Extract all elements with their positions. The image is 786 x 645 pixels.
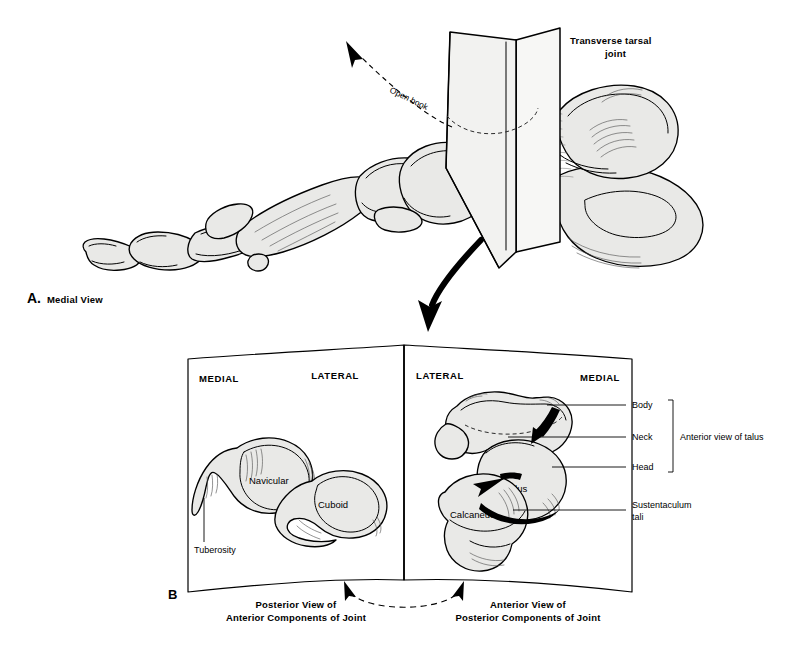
transverse-tarsal-joint-label-line2: joint — [604, 48, 627, 59]
transverse-tarsal-joint-label-line1: Transverse tarsal — [570, 35, 652, 46]
left-page-caption-line2: Anterior Components of Joint — [226, 612, 367, 623]
anatomy-figure-svg: Open book Transverse tarsal joint A. Med… — [0, 0, 786, 645]
cutting-plane-posterior — [516, 28, 560, 252]
panel-a-letter: A. — [27, 290, 41, 306]
label-head: Head — [632, 462, 654, 472]
panel-a-caption: Medial View — [47, 294, 103, 305]
right-page-orientation-lateral: LATERAL — [416, 370, 464, 381]
bone-label-cuboid: Cuboid — [318, 499, 348, 510]
right-page-orientation-medial: MEDIAL — [580, 372, 620, 383]
left-page-orientation-lateral: LATERAL — [311, 370, 359, 381]
left-page-caption-line1: Posterior View of — [256, 599, 337, 610]
left-page-orientation-medial: MEDIAL — [199, 373, 239, 384]
right-page-caption-line2: Posterior Components of Joint — [455, 612, 601, 623]
label-sustentaculum-line1: Sustentaculum — [632, 500, 692, 510]
label-body: Body — [632, 400, 653, 410]
bone-tuberosity-nub — [248, 254, 269, 271]
bone-label-navicular: Navicular — [249, 475, 289, 486]
figure-root: Open book Transverse tarsal joint A. Med… — [0, 0, 786, 645]
bracket-label-anterior-view-of-talus: Anterior view of talus — [680, 432, 764, 442]
tuberosity-label: Tuberosity — [194, 545, 236, 555]
label-sustentaculum-line2: tali — [632, 512, 644, 522]
panel-b-letter: B — [168, 587, 177, 602]
canvas-background — [0, 0, 786, 645]
label-neck: Neck — [632, 432, 653, 442]
right-page-caption-line1: Anterior View of — [490, 599, 567, 610]
